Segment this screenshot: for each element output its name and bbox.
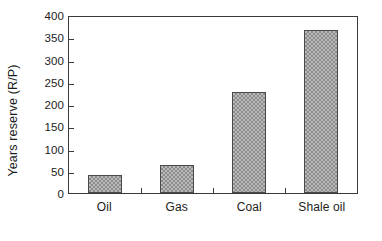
y-axis-tick-label: 300 — [45, 55, 65, 67]
x-axis-category-labels: OilGasCoalShale oil — [68, 200, 358, 222]
bar — [304, 30, 339, 193]
y-axis-tick-label: 400 — [45, 10, 65, 22]
bar — [160, 165, 195, 193]
x-axis-category-label: Shale oil — [286, 200, 359, 222]
plot-area — [68, 16, 358, 194]
y-axis-tick-label: 50 — [51, 166, 64, 178]
y-axis-tick-label: 100 — [45, 144, 65, 156]
bar-slot — [213, 17, 285, 193]
x-axis-category-label: Coal — [213, 200, 286, 222]
bar — [232, 92, 267, 193]
bar-slot — [141, 17, 213, 193]
y-axis-tick-label: 350 — [45, 32, 65, 44]
y-axis-tick-label: 150 — [45, 121, 65, 133]
y-axis-tick-label: 250 — [45, 77, 65, 89]
bar — [88, 175, 123, 193]
bar-slot — [285, 17, 357, 193]
y-axis-tick-label: 200 — [45, 99, 65, 111]
y-axis-title: Years reserve (R/P) — [0, 0, 26, 241]
bar-chart-figure: Years reserve (R/P) 05010015020025030035… — [0, 0, 382, 241]
x-axis-category-label: Oil — [68, 200, 141, 222]
y-axis-tick-label: 0 — [58, 188, 65, 200]
y-axis-tick-labels: 050100150200250300350400 — [26, 0, 66, 241]
bar-slot — [69, 17, 141, 193]
x-axis-category-label: Gas — [141, 200, 214, 222]
bar-series — [69, 17, 357, 193]
